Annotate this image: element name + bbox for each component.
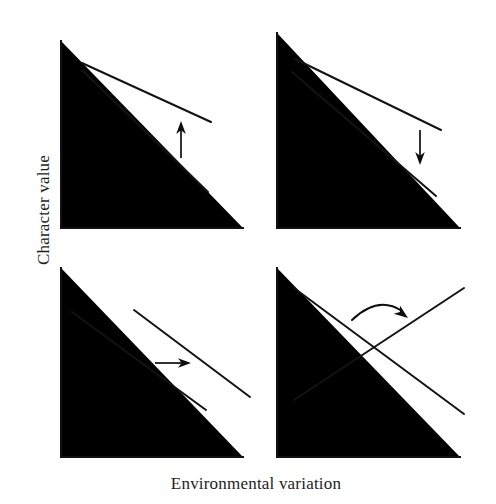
panels-canvas <box>0 0 496 504</box>
panel-bottom-left <box>61 268 250 457</box>
panel-bottom-right-curved-arrow <box>352 305 408 320</box>
panel-top-left-axes <box>61 41 243 228</box>
x-axis-label: Environmental variation <box>96 474 416 494</box>
panel-top-right <box>277 33 460 228</box>
panel-top-left-up-arrow <box>176 121 186 158</box>
panel-top-left <box>61 41 243 228</box>
panel-top-right-axes <box>277 33 460 228</box>
panel-bottom-left-axes <box>61 268 243 457</box>
y-axis-label: Character value <box>34 90 58 330</box>
panel-top-right-down-arrow <box>415 130 425 165</box>
panel-bottom-left-right-arrow <box>155 358 191 368</box>
reaction-norm-figure: Character value Environmental variation <box>0 0 496 504</box>
panel-bottom-right <box>277 268 464 457</box>
